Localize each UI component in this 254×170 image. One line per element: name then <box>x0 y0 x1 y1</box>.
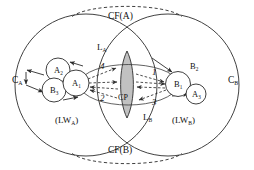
label-node-b3: B3 <box>50 86 58 95</box>
label-node-a1: A1 <box>72 79 81 88</box>
label-cf-a: CF(A) <box>108 12 133 22</box>
label-c-b: CB <box>228 76 238 86</box>
label-flow-2: 2 <box>100 94 105 103</box>
flow-arrow-mid-right <box>136 82 165 88</box>
label-node-a3: A3 <box>192 90 201 99</box>
label-lw-a: (LWA) <box>55 116 78 125</box>
label-lw-b: (LWB) <box>172 116 195 125</box>
label-cf-b: CF(B) <box>108 146 132 156</box>
label-node-b2: B2 <box>190 62 198 71</box>
diagram-canvas: CA CB CF(A) CF(B) (LWA) (LWB) LA LB CP A… <box>0 0 254 170</box>
label-node-a2: A2 <box>54 66 63 75</box>
label-flow-4: 4 <box>100 62 105 71</box>
label-l-b: LB <box>143 113 152 122</box>
label-c-a: CA <box>12 76 23 86</box>
label-node-b1: B1 <box>174 80 182 89</box>
label-cp: CP <box>118 94 128 102</box>
label-flow-3: 3 <box>152 98 157 107</box>
label-flow-1: 1 <box>152 68 157 77</box>
label-l-a: LA <box>97 43 107 52</box>
flow-arrow-1 <box>136 74 164 82</box>
flow-arrow-mid-left <box>89 82 118 89</box>
common-part-lens <box>121 51 134 118</box>
